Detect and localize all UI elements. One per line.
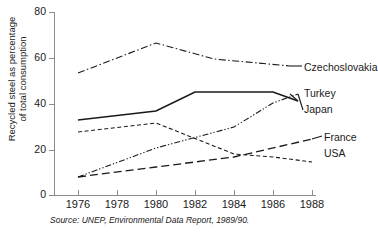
series-line-czechoslovakia: [78, 43, 290, 73]
series-label-usa: USA: [324, 147, 346, 159]
source-note: Source: UNEP, Environmental Data Report,…: [50, 215, 249, 225]
series-line-turkey: [78, 92, 298, 120]
leader-line-japan: [298, 94, 303, 110]
leader-line-france: [312, 136, 322, 139]
series-label-france: France: [324, 131, 357, 143]
series-label-japan: Japan: [304, 103, 333, 115]
series-label-czechoslovakia: Czechoslovakia: [304, 61, 378, 73]
series-label-turkey: Turkey: [304, 87, 336, 99]
series-line-usa: [78, 123, 312, 162]
